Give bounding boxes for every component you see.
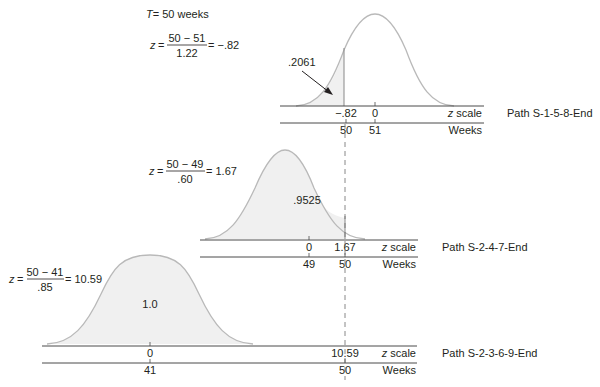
svg-text:50 − 51: 50 − 51	[168, 32, 205, 44]
normal-curve-1	[296, 14, 454, 106]
pointer-arrow	[302, 71, 329, 92]
t-value-label: T= 50 weeks	[146, 8, 209, 20]
panel-path-s-2-3-6-9-end: 0 10.59 41 50 z scale Weeks Path S-2-3-6…	[8, 255, 537, 376]
svg-text:.85: .85	[37, 281, 52, 293]
probability-label: .9525	[293, 194, 321, 206]
svg-text:50 − 41: 50 − 41	[26, 266, 63, 278]
svg-text:50 − 49: 50 − 49	[166, 158, 203, 170]
z-tick-label: −.82	[335, 107, 357, 119]
week-tick-label: 49	[303, 258, 315, 270]
week-tick-label: 41	[144, 364, 156, 376]
svg-text:z: z	[149, 39, 156, 51]
weeks-label: Weeks	[449, 124, 483, 136]
svg-text:= −.82: = −.82	[208, 39, 239, 51]
weeks-label: Weeks	[383, 258, 417, 270]
z-formula-1: z = 50 − 51 1.22 = −.82	[149, 32, 239, 59]
week-tick-label: 50	[340, 124, 352, 136]
svg-text:1.22: 1.22	[176, 47, 197, 59]
svg-text:.60: .60	[177, 173, 192, 185]
normal-distribution-diagram: T= 50 weeks −.82 0 50 51 z scale Weeks P…	[0, 0, 600, 387]
svg-text:z: z	[8, 273, 15, 285]
z-scale-label: z scale	[447, 107, 482, 119]
week-tick-label: 51	[369, 124, 381, 136]
z-tick-label: 0	[147, 347, 153, 359]
z-formula-3: z = 50 − 41 .85 = 10.59	[8, 266, 102, 293]
z-formula-2: z = 50 − 49 .60 = 1.67	[148, 158, 237, 185]
svg-text:=: =	[157, 165, 163, 177]
probability-label: 1.0	[142, 298, 157, 310]
svg-text:= 10.59: = 10.59	[65, 273, 102, 285]
svg-text:=: =	[158, 39, 164, 51]
shaded-area-2	[205, 150, 345, 239]
z-tick-label: 0	[372, 107, 378, 119]
probability-label: .2061	[288, 56, 316, 68]
panel-path-s-1-5-8-end: −.82 0 50 51 z scale Weeks Path S-1-5-8-…	[149, 14, 593, 136]
path-label: Path S-2-3-6-9-End	[442, 347, 537, 359]
svg-text:z: z	[148, 165, 155, 177]
z-tick-label: 0	[306, 241, 312, 253]
path-label: Path S-2-4-7-End	[442, 241, 528, 253]
svg-text:= 1.67: = 1.67	[206, 165, 237, 177]
z-scale-label: z scale	[381, 347, 416, 359]
weeks-label: Weeks	[383, 364, 417, 376]
panel-path-s-2-4-7-end: 0 1.67 49 50 z scale Weeks Path S-2-4-7-…	[148, 150, 528, 270]
z-scale-label: z scale	[381, 241, 416, 253]
path-label: Path S-1-5-8-End	[507, 107, 593, 119]
svg-text:=: =	[17, 273, 23, 285]
